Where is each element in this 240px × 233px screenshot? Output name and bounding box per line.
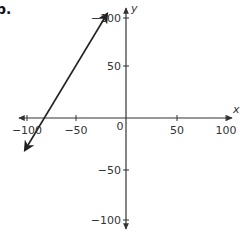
x-tick-label: 50: [170, 124, 184, 137]
x-tick-label: 100: [216, 124, 237, 137]
y-tick-label: 50: [107, 60, 121, 73]
problem-label: b.: [0, 1, 11, 17]
y-tick-label: −100: [91, 12, 121, 25]
y-tick-label: −50: [98, 164, 121, 177]
y-axis-label: y: [130, 2, 138, 15]
y-tick-label: −100: [91, 214, 121, 227]
x-tick-label: −50: [64, 124, 87, 137]
x-axis-label: x: [232, 103, 240, 116]
coordinate-plane: b. −100 −50 50 100 0 −100 50 −50 −100 x …: [0, 0, 240, 233]
origin-label: 0: [117, 120, 124, 133]
